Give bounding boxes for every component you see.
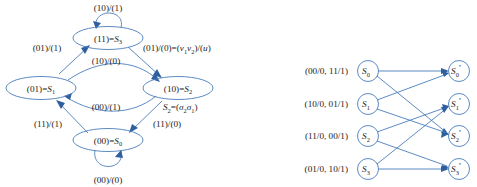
- trellis-node-s1-prime-label: S1′: [451, 96, 461, 110]
- trellis-input-label-0: (00/0, 11/1): [305, 66, 348, 76]
- trellis-edge-s1-s2p: [377, 109, 447, 133]
- trellis-edge-s3-s1p: [377, 108, 447, 164]
- trellis-node-s3-label: S3: [362, 164, 370, 176]
- trellis-input-label-2: (11/0, 00/1): [305, 131, 348, 141]
- trellis-edge-s0-s2p: [377, 76, 447, 133]
- trellis-input-label-1: (10/0, 01/1): [305, 99, 348, 109]
- trellis-node-s2-label: S2: [362, 131, 370, 143]
- trellis-diagram: S0 S1 S2 S3 S0′ S1′ S2′ S3′ (00/0, 11/1)…: [0, 0, 477, 187]
- arrowhead-trellis-s1-s2p: [441, 132, 449, 138]
- trellis-node-s0-label: S0: [362, 66, 370, 78]
- trellis-node-s2-prime-label: S2′: [451, 128, 461, 142]
- trellis-edge-s2-s3p: [377, 141, 447, 166]
- trellis-edge-s2-s1p: [377, 107, 447, 132]
- trellis-node-s0-prime-label: S0′: [451, 63, 461, 77]
- trellis-node-s1-label: S1: [362, 99, 370, 111]
- trellis-edge-s1-s0p: [377, 74, 447, 100]
- trellis-node-s3-prime-label: S3′: [451, 161, 461, 175]
- trellis-input-label-3: (01/0, 10/1): [305, 164, 348, 174]
- figure-canvas: (11)=S3 (01)=S1 (10)=S2 (00)=S0 (10)/(1)…: [0, 0, 477, 187]
